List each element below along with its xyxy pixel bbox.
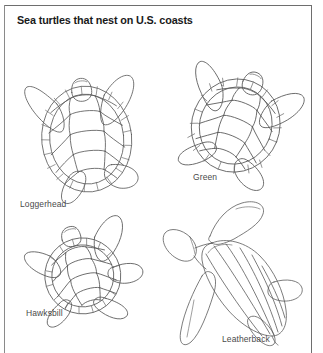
figure-title: Sea turtles that nest on U.S. coasts (17, 14, 193, 26)
turtle-illustration-green (168, 56, 313, 191)
green-drawing (168, 56, 313, 191)
turtle-label-loggerhead: Loggerhead (20, 199, 66, 209)
turtle-label-hawksbill: Hawksbill (26, 308, 63, 318)
leatherback-drawing (150, 196, 312, 351)
turtle-illustration-loggerhead (12, 57, 162, 207)
loggerhead-drawing (12, 57, 162, 207)
frame-left-rule (4, 5, 5, 353)
frame-top-rule (4, 5, 311, 6)
turtle-illustration-leatherback (150, 196, 312, 351)
sea-turtles-figure: Sea turtles that nest on U.S. coasts (0, 0, 323, 353)
turtle-label-leatherback: Leatherback (222, 334, 270, 344)
turtle-label-green: Green (193, 172, 217, 182)
